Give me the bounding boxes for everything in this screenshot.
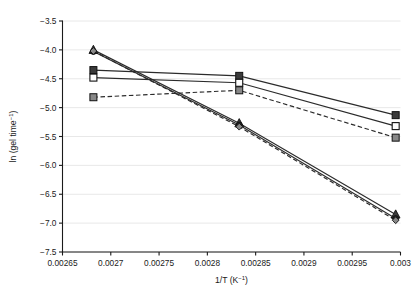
x-tick-label: 0.00285	[241, 258, 271, 268]
data-point-gray-square	[236, 87, 243, 94]
x-tick-label: 0.0027	[98, 258, 124, 268]
data-point-filled-square	[392, 112, 399, 119]
x-tick-label: 0.00275	[144, 258, 174, 268]
y-tick-label: −6.5	[40, 189, 57, 199]
x-tick-label: 0.0028	[195, 258, 221, 268]
x-tick-label: 0.00295	[337, 258, 367, 268]
y-tick-label: −5.0	[40, 103, 57, 113]
y-axis-tick-labels: −3.5−4.0−4.5−5.0−5.5−6.0−6.5−7.0−7.5	[40, 16, 57, 257]
x-tick-label: 0.0029	[291, 258, 317, 268]
y-tick-label: −5.5	[40, 132, 57, 142]
data-point-open-square	[236, 79, 243, 86]
data-point-gray-square	[90, 94, 97, 101]
y-tick-label: −7.5	[40, 247, 57, 257]
data-point-open-square	[392, 123, 399, 130]
data-point-open-square	[90, 74, 97, 81]
y-tick-label: −4.0	[40, 45, 57, 55]
y-tick-label: −4.5	[40, 74, 57, 84]
x-tick-label: 0.00265	[48, 258, 78, 268]
data-point-filled-square	[236, 72, 243, 79]
data-point-filled-square	[90, 67, 97, 74]
y-tick-label: −7.0	[40, 218, 57, 228]
arrhenius-line-chart: 0.002650.00270.002750.00280.002850.00290…	[0, 0, 416, 303]
chart-container: 0.002650.00270.002750.00280.002850.00290…	[0, 0, 416, 303]
data-point-gray-square	[392, 134, 399, 141]
y-tick-label: −3.5	[40, 16, 57, 26]
y-tick-label: −6.0	[40, 160, 57, 170]
x-tick-label: 0.003	[390, 258, 411, 268]
